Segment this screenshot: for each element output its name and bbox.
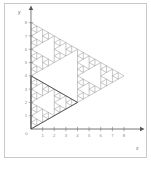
fractal-triangle — [78, 96, 84, 103]
fractal-triangle — [78, 49, 84, 56]
fractal-triangle — [31, 43, 37, 50]
fractal-triangle — [72, 46, 78, 53]
fractal-triangle — [83, 92, 89, 99]
origin-label: 0 — [25, 131, 28, 136]
fractal-triangle — [66, 43, 72, 50]
plot-content: 12345678123456780 — [25, 6, 145, 138]
fractal-triangle — [78, 76, 84, 83]
fractal-triangle — [83, 53, 89, 60]
fractal-triangle — [89, 56, 95, 63]
y-tick-label: 2 — [25, 100, 28, 105]
x-tick-label: 2 — [53, 133, 56, 138]
fractal-triangle — [43, 109, 49, 116]
fractal-triangle — [31, 116, 37, 123]
fractal-triangle — [54, 36, 60, 43]
fractal-triangle — [31, 63, 37, 70]
y-tick-label: 8 — [25, 20, 28, 25]
sierpinski-plot: 12345678123456780 x y — [5, 4, 146, 157]
fractal-triangle — [101, 82, 107, 89]
figure-panel: 12345678123456780 x y — [0, 0, 151, 176]
x-axis-arrow — [140, 127, 145, 131]
fractal-triangle — [31, 96, 37, 103]
x-tick-label: 4 — [76, 133, 79, 138]
x-tick-label: 3 — [65, 133, 68, 138]
y-tick-label: 3 — [25, 87, 28, 92]
fractal-triangle — [31, 102, 37, 109]
fractal-triangle — [89, 82, 95, 89]
plot-frame: 12345678123456780 x y — [4, 3, 147, 158]
x-tick-label: 5 — [88, 133, 91, 138]
fractal-triangle — [37, 39, 43, 46]
fractal-triangle — [101, 63, 107, 70]
fractal-triangle — [48, 33, 54, 40]
axis-tick-labels: 12345678123456780 — [25, 20, 126, 137]
fractal-triangle — [31, 49, 37, 56]
fractal-triangle — [31, 29, 37, 36]
fractal-triangle — [78, 82, 84, 89]
fractal-triangle — [37, 66, 43, 73]
fractal-triangle — [66, 49, 72, 56]
fractal-triangle — [118, 73, 124, 80]
fractal-triangle — [37, 92, 43, 99]
y-tick-label: 1 — [25, 113, 28, 118]
fractal-triangle — [107, 66, 113, 73]
y-tick-label: 4 — [25, 73, 28, 78]
fractal-triangle — [37, 106, 43, 113]
fractal-triangle — [54, 96, 60, 103]
y-axis-label: y — [17, 9, 21, 15]
fractal-triangle — [43, 56, 49, 63]
fractal-triangle — [43, 29, 49, 36]
fractal-triangle — [37, 26, 43, 33]
fractal-triangle — [112, 69, 118, 76]
fractal-triangle — [89, 89, 95, 96]
fractal-triangle — [31, 23, 37, 30]
fractal-triangle — [43, 63, 49, 70]
fractal-triangle — [78, 56, 84, 63]
fractal-triangle — [54, 56, 60, 63]
x-tick-label: 8 — [123, 133, 126, 138]
fractal-triangle — [89, 63, 95, 70]
fractal-triangle — [95, 86, 101, 93]
fractal-triangle — [101, 69, 107, 76]
fractal-triangle — [31, 89, 37, 96]
fractal-triangle — [37, 53, 43, 60]
fractal-triangle — [48, 59, 54, 66]
fractal-triangle — [83, 79, 89, 86]
fractal-triangle — [78, 63, 84, 70]
fractal-triangle — [31, 36, 37, 43]
x-axis-label: x — [135, 145, 139, 151]
fractal-triangle — [54, 43, 60, 50]
fractal-triangle — [78, 69, 84, 76]
y-axis-arrow — [29, 6, 33, 11]
fractal-light-strokes — [31, 23, 124, 129]
fractal-triangle — [54, 49, 60, 56]
fractal-triangle — [60, 39, 66, 46]
fractal-triangle — [60, 53, 66, 60]
fractal-triangle — [101, 76, 107, 83]
fractal-triangle — [43, 36, 49, 43]
fractal-triangle — [54, 102, 60, 109]
fractal-triangle — [107, 79, 113, 86]
fractal-triangle — [95, 59, 101, 66]
x-tick-label: 6 — [100, 133, 103, 138]
fractal-triangle — [31, 56, 37, 63]
sierpinski-fractal — [31, 23, 124, 129]
fractal-triangle — [78, 89, 84, 96]
x-tick-label: 7 — [111, 133, 114, 138]
fractal-triangle — [43, 89, 49, 96]
y-tick-label: 7 — [25, 34, 28, 39]
fractal-triangle — [31, 82, 37, 89]
fractal-triangle — [112, 76, 118, 83]
fractal-triangle — [31, 69, 37, 76]
y-tick-label: 5 — [25, 60, 28, 65]
coordinate-axes — [29, 6, 145, 132]
y-tick-label: 6 — [25, 47, 28, 52]
x-tick-label: 1 — [41, 133, 44, 138]
fractal-triangle — [31, 109, 37, 116]
fractal-triangle — [83, 66, 89, 73]
axis-ticks — [29, 23, 124, 132]
